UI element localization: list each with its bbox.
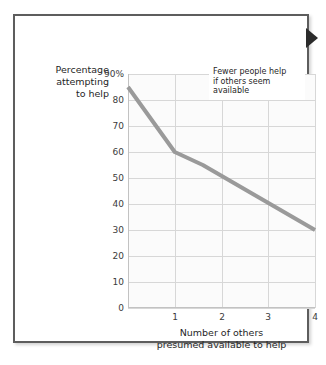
y-axis-tick-label: 30 xyxy=(80,226,124,235)
x-axis-tick-label: 2 xyxy=(210,312,234,322)
annotation-line: available xyxy=(213,86,301,96)
y-axis-tick-label: 50 xyxy=(80,174,124,183)
chart-line-layer xyxy=(128,74,315,308)
figure-frame: 0102030405060708090% 1234 Percentageatte… xyxy=(13,14,309,343)
chart-annotation-callout: Fewer people helpif others seemavailable xyxy=(209,64,305,100)
chart-plot-area xyxy=(128,74,315,308)
y-axis-tick-label: 60 xyxy=(80,148,124,157)
x-axis-title: Number of otherspresumed available to he… xyxy=(128,327,315,351)
data-series-line xyxy=(128,87,315,230)
annotation-line: Fewer people help xyxy=(213,67,301,77)
gridline-vertical xyxy=(315,74,316,308)
y-axis-tick-label: 40 xyxy=(80,200,124,209)
y-axis-title: Percentageattemptingto help xyxy=(31,64,109,100)
y-axis-title-line: Percentage xyxy=(31,64,109,76)
y-axis-tick-labels: 0102030405060708090% xyxy=(78,74,124,308)
y-axis-title-line: to help xyxy=(31,88,109,100)
x-axis-title-line: Number of others xyxy=(128,327,315,339)
x-axis-tick-labels: 1234 xyxy=(128,312,315,326)
right-triangle-marker-icon xyxy=(306,28,318,48)
x-axis-tick-label: 3 xyxy=(256,312,280,322)
y-axis-title-line: attempting xyxy=(31,76,109,88)
y-axis-tick-label: 70 xyxy=(80,122,124,131)
x-axis-tick-label: 1 xyxy=(163,312,187,322)
x-axis-tick-label: 4 xyxy=(303,312,326,322)
y-axis-tick-label: 0 xyxy=(80,304,124,313)
x-axis-title-line: presumed available to help xyxy=(128,339,315,351)
y-axis-tick-label: 10 xyxy=(80,278,124,287)
y-axis-tick-label: 20 xyxy=(80,252,124,261)
gridline-horizontal xyxy=(128,308,315,309)
annotation-line: if others seem xyxy=(213,77,301,87)
